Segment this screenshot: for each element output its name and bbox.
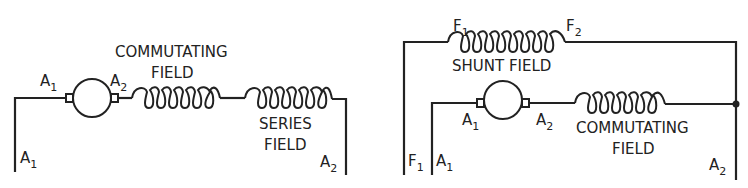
armature-a2-label: A2	[110, 72, 127, 94]
shunt-field-label: SHUNT FIELD	[452, 57, 551, 75]
terminal-a1-label: A1	[20, 149, 37, 171]
series-motor-diagram: COMMUTATING FIELD SERIES FIELD A1 A2 A1 …	[15, 43, 346, 175]
series-field-label-2: FIELD	[264, 136, 306, 154]
brush-a1	[66, 94, 73, 102]
brush-a1	[477, 99, 484, 107]
junction-dot	[733, 101, 740, 108]
commutating-field-label-2: FIELD	[151, 64, 193, 82]
f2-top-label: F2	[566, 17, 582, 39]
commutating-field-coil-icon	[575, 92, 665, 113]
motor-wiring-diagrams: COMMUTATING FIELD SERIES FIELD A1 A2 A1 …	[0, 0, 748, 188]
terminal-f1-label: F1	[408, 152, 424, 174]
armature-icon	[73, 79, 111, 117]
commutating-field-label: COMMUTATING	[576, 119, 689, 137]
armature-a1-label: A1	[40, 72, 57, 94]
armature-a1-label: A1	[462, 111, 479, 133]
terminal-a2-label: A2	[320, 153, 337, 175]
series-field-coil-icon	[245, 87, 332, 108]
terminal-a1-label: A1	[436, 152, 453, 174]
armature-icon	[484, 81, 522, 119]
commutating-field-label-2: FIELD	[612, 140, 654, 158]
commutating-field-label: COMMUTATING	[115, 43, 228, 61]
series-field-label: SERIES	[259, 115, 312, 133]
brush-a2	[522, 99, 529, 107]
armature-a2-label: A2	[536, 111, 553, 133]
compound-motor-diagram: F1 F2 SHUNT FIELD A1 A2 COMMUTATING FIEL…	[404, 17, 740, 180]
f1-top-label: F1	[453, 17, 469, 39]
brush-a2	[111, 94, 118, 102]
terminal-a2-label: A2	[709, 156, 726, 178]
commutating-field-coil-icon	[132, 87, 220, 108]
